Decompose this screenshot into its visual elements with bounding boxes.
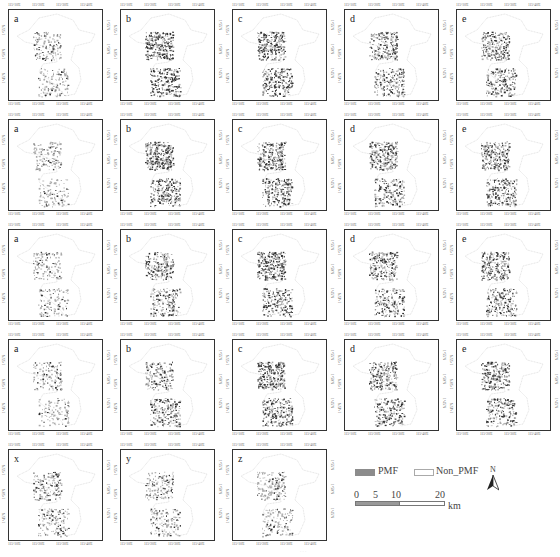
map-frame: b: [120, 9, 215, 101]
map-panel: 115°10'E115°10'E115°20'E115°20'E115°30'E…: [112, 0, 224, 110]
x-tick-label: 115°10'E: [456, 102, 468, 106]
region-map: [345, 120, 438, 210]
x-tick-label: 115°20'E: [480, 113, 492, 117]
y-tick-label: 1°50'N: [226, 379, 230, 389]
x-tick-label: 115°40'E: [80, 102, 92, 106]
x-tick-label: 115°20'E: [144, 542, 156, 546]
x-tick-label: 115°30'E: [280, 333, 292, 337]
y-tick-label: 1°55'N: [226, 25, 230, 35]
y-tick-label: 1°45'N: [226, 183, 230, 193]
y-tick-label: 1°55'N: [218, 240, 222, 250]
pmf-label: PMF: [378, 465, 398, 476]
x-tick-label: 115°10'E: [456, 223, 468, 227]
y-tick-label: 1°45'N: [442, 68, 446, 78]
x-tick-label: 115°30'E: [280, 223, 292, 227]
x-tick-label: 115°10'E: [120, 113, 132, 117]
x-tick-label: 115°40'E: [416, 3, 428, 7]
y-tick-label: 1°45'N: [442, 288, 446, 298]
panel-label: c: [238, 233, 242, 244]
y-tick-label: 1°45'N: [114, 73, 118, 83]
x-tick-label: 115°10'E: [344, 322, 356, 326]
y-tick-label: 1°55'N: [226, 245, 230, 255]
panel-label: b: [126, 13, 131, 24]
x-tick-label: 115°40'E: [192, 223, 204, 227]
map-frame: c: [232, 9, 327, 101]
x-tick-label: 115°30'E: [56, 212, 68, 216]
x-tick-label: 115°40'E: [304, 3, 316, 7]
x-tick-label: 115°20'E: [256, 322, 268, 326]
map-frame: c: [232, 119, 327, 211]
x-tick-label: 115°20'E: [144, 113, 156, 117]
map-panel: 115°10'E115°10'E115°20'E115°20'E115°30'E…: [224, 220, 336, 330]
y-tick-label: 1°55'N: [114, 25, 118, 35]
caption: . . .: [300, 548, 306, 553]
x-tick-label: 115°20'E: [144, 3, 156, 7]
x-tick-label: 115°30'E: [392, 113, 404, 117]
x-tick-label: 115°40'E: [192, 322, 204, 326]
map-frame: c: [232, 339, 327, 431]
y-tick-label: 1°45'N: [226, 73, 230, 83]
y-tick-label: 1°55'N: [106, 20, 110, 30]
north-arrow-icon: [487, 475, 499, 491]
x-tick-label: 115°30'E: [56, 223, 68, 227]
x-tick-label: 115°40'E: [192, 3, 204, 7]
map-panel: 115°10'E115°10'E115°20'E115°20'E115°30'E…: [112, 330, 224, 440]
region-map: [121, 120, 214, 210]
x-tick-label: 115°10'E: [120, 443, 132, 447]
y-tick-label: 1°45'N: [114, 183, 118, 193]
y-tick-label: 1°50'N: [338, 269, 342, 279]
y-tick-label: 1°50'N: [106, 154, 110, 164]
x-tick-label: 115°20'E: [144, 322, 156, 326]
scale-tick-5: 5: [373, 489, 378, 500]
x-tick-label: 115°20'E: [368, 223, 380, 227]
y-tick-label: 1°55'N: [226, 355, 230, 365]
x-tick-label: 115°40'E: [304, 223, 316, 227]
panel-label: c: [238, 123, 242, 134]
y-tick-label: 1°50'N: [338, 159, 342, 169]
map-frame: z: [232, 449, 327, 541]
x-tick-label: 115°10'E: [344, 432, 356, 436]
x-tick-label: 115°20'E: [368, 3, 380, 7]
y-tick-label: 1°45'N: [226, 513, 230, 523]
y-tick-label: 1°45'N: [338, 403, 342, 413]
y-tick-label: 1°55'N: [218, 350, 222, 360]
map-panel: 115°10'E115°10'E115°20'E115°20'E115°30'E…: [112, 220, 224, 330]
x-tick-label: 115°20'E: [256, 3, 268, 7]
y-tick-label: 1°50'N: [2, 159, 6, 169]
region-map: [457, 10, 550, 100]
y-tick-label: 1°55'N: [330, 350, 334, 360]
x-tick-label: 115°40'E: [416, 102, 428, 106]
region-map: [345, 340, 438, 430]
x-tick-label: 115°20'E: [368, 432, 380, 436]
x-tick-label: 115°20'E: [368, 333, 380, 337]
y-tick-label: 1°50'N: [226, 269, 230, 279]
x-tick-label: 115°30'E: [168, 212, 180, 216]
y-tick-label: 1°50'N: [442, 374, 446, 384]
x-tick-label: 115°30'E: [168, 333, 180, 337]
x-tick-label: 115°10'E: [456, 322, 468, 326]
x-tick-label: 115°40'E: [416, 333, 428, 337]
x-tick-label: 115°20'E: [480, 322, 492, 326]
y-tick-label: 1°45'N: [2, 293, 6, 303]
x-tick-label: 115°30'E: [504, 212, 516, 216]
panel-label: d: [350, 123, 355, 134]
x-tick-label: 115°30'E: [280, 102, 292, 106]
x-tick-label: 115°40'E: [192, 113, 204, 117]
x-tick-label: 115°10'E: [120, 542, 132, 546]
x-tick-label: 115°30'E: [56, 432, 68, 436]
y-tick-label: 1°50'N: [226, 489, 230, 499]
x-tick-label: 115°10'E: [456, 212, 468, 216]
panel-label: y: [126, 453, 131, 464]
y-tick-label: 1°50'N: [330, 264, 334, 274]
map-frame: a: [8, 339, 103, 431]
x-tick-label: 115°20'E: [368, 113, 380, 117]
y-tick-label: 1°55'N: [442, 20, 446, 30]
x-tick-label: 115°30'E: [504, 113, 516, 117]
x-tick-label: 115°20'E: [32, 3, 44, 7]
map-frame: d: [344, 339, 439, 431]
y-tick-label: 1°55'N: [226, 465, 230, 475]
y-tick-label: 1°55'N: [114, 135, 118, 145]
region-map: [9, 120, 102, 210]
y-tick-label: 1°45'N: [554, 398, 558, 408]
x-tick-label: 115°30'E: [56, 322, 68, 326]
